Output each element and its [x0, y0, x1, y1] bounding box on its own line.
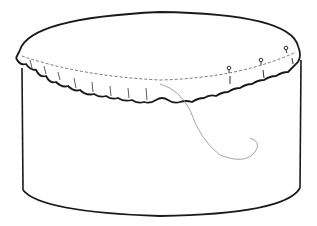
pin-icon	[227, 66, 231, 84]
cylinder-bottom-edge	[23, 188, 300, 216]
drum-cover-illustration	[0, 0, 317, 226]
illustration-canvas	[0, 0, 317, 226]
pin-icon	[259, 58, 264, 78]
cover-stitch-line	[22, 52, 296, 80]
cover-top-ellipse	[20, 12, 298, 50]
cylinder-left-side	[22, 68, 23, 190]
cylinder-right-side	[300, 60, 301, 188]
